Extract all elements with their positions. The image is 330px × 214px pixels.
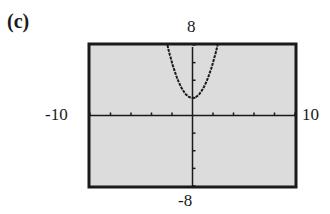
graph-window [0, 0, 330, 214]
